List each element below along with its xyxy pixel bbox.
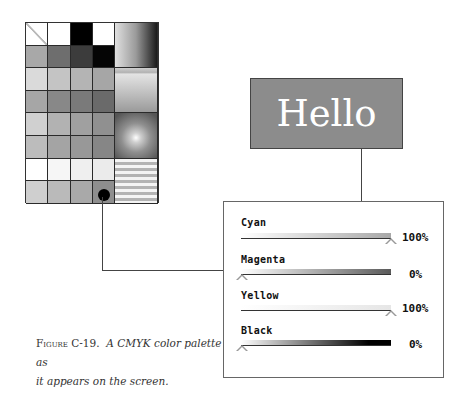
palette-swatch[interactable] bbox=[26, 68, 48, 91]
palette-swatch[interactable] bbox=[26, 91, 48, 114]
palette-swatch[interactable] bbox=[26, 113, 48, 136]
cyan-slider-baseline bbox=[241, 238, 391, 239]
palette-swatch[interactable] bbox=[48, 181, 70, 204]
magenta-value: 0% bbox=[409, 268, 422, 281]
palette-pattern-swatch-horizontal-gradient[interactable] bbox=[115, 23, 158, 68]
figure-label: Figure C-19. bbox=[36, 337, 100, 349]
palette-swatch[interactable] bbox=[71, 91, 93, 114]
cyan-label: Cyan bbox=[241, 217, 266, 228]
palette-swatch[interactable] bbox=[48, 23, 70, 46]
yellow-value: 100% bbox=[402, 302, 429, 315]
yellow-slider-thumb[interactable] bbox=[385, 310, 397, 316]
palette-swatch[interactable] bbox=[26, 181, 48, 204]
magenta-slider-thumb[interactable] bbox=[236, 274, 248, 280]
palette-swatch[interactable] bbox=[71, 46, 93, 69]
palette-swatch[interactable] bbox=[93, 136, 115, 159]
black-label: Black bbox=[241, 325, 273, 336]
palette-swatch[interactable] bbox=[26, 159, 48, 182]
palette-swatch[interactable] bbox=[71, 136, 93, 159]
palette-swatch[interactable] bbox=[48, 46, 70, 69]
connector-line-horizontal bbox=[102, 270, 223, 271]
palette-swatch[interactable] bbox=[48, 68, 70, 91]
palette-swatch[interactable] bbox=[26, 46, 48, 69]
palette-pattern-swatch-stripes[interactable] bbox=[115, 159, 158, 204]
cyan-slider-thumb[interactable] bbox=[385, 238, 397, 244]
palette-swatch[interactable] bbox=[93, 91, 115, 114]
palette-swatch[interactable] bbox=[71, 113, 93, 136]
palette-swatch[interactable] bbox=[71, 181, 93, 204]
caption-text-line2: it appears on the screen. bbox=[36, 375, 169, 387]
palette-swatch[interactable] bbox=[71, 68, 93, 91]
color-preview-box: Hello bbox=[250, 78, 403, 149]
connector-line-vertical bbox=[102, 197, 103, 271]
palette-swatch[interactable] bbox=[48, 113, 70, 136]
magenta-slider-baseline bbox=[241, 274, 391, 275]
black-slider-baseline bbox=[241, 345, 391, 346]
figure-caption: Figure C-19. A CMYK color palette as it … bbox=[36, 334, 226, 391]
cmyk-slider-panel: Cyan 100% Magenta 0% Yellow 100% Black 0… bbox=[223, 201, 444, 378]
palette-swatch[interactable] bbox=[71, 23, 93, 46]
palette-swatch[interactable] bbox=[26, 23, 48, 46]
palette-swatch[interactable] bbox=[93, 46, 115, 69]
yellow-label: Yellow bbox=[241, 290, 279, 301]
preview-text: Hello bbox=[276, 92, 376, 135]
connector-line-preview bbox=[361, 149, 362, 201]
palette-swatch[interactable] bbox=[48, 91, 70, 114]
palette-swatch[interactable] bbox=[26, 136, 48, 159]
palette-pattern-swatch-radial-gradient[interactable] bbox=[115, 113, 158, 158]
black-value: 0% bbox=[409, 338, 422, 351]
palette-swatch[interactable] bbox=[48, 159, 70, 182]
palette-swatch[interactable] bbox=[71, 159, 93, 182]
palette-swatch[interactable] bbox=[93, 23, 115, 46]
palette-swatch[interactable] bbox=[93, 68, 115, 91]
palette-swatch[interactable] bbox=[93, 159, 115, 182]
yellow-slider-baseline bbox=[241, 310, 391, 311]
color-palette bbox=[25, 22, 159, 203]
selected-swatch-indicator bbox=[98, 189, 110, 201]
cyan-value: 100% bbox=[402, 231, 429, 244]
palette-pattern-swatch-vertical-gradient[interactable] bbox=[115, 68, 158, 113]
palette-swatch[interactable] bbox=[48, 136, 70, 159]
magenta-label: Magenta bbox=[241, 254, 285, 265]
palette-swatch[interactable] bbox=[93, 113, 115, 136]
black-slider-thumb[interactable] bbox=[236, 345, 248, 351]
